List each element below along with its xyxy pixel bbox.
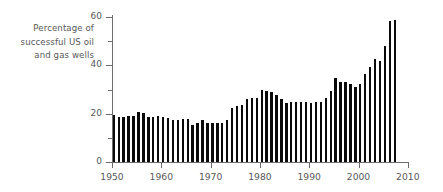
bar-1956 xyxy=(142,113,144,162)
bar-2003 xyxy=(374,59,376,162)
bar-2006 xyxy=(389,21,391,162)
bar-1974 xyxy=(231,108,233,162)
bar-1983 xyxy=(275,95,277,162)
bar-1972 xyxy=(221,123,223,162)
y-axis-label: Percentage of successful US oil and gas … xyxy=(6,22,94,63)
bar-1965 xyxy=(187,119,189,162)
bar-1995 xyxy=(334,78,336,162)
bar-1971 xyxy=(216,123,218,162)
bar-2000 xyxy=(359,84,361,162)
x-axis-tick-2000 xyxy=(359,163,360,168)
bar-1996 xyxy=(339,82,341,162)
bar-1997 xyxy=(344,82,346,162)
bar-1979 xyxy=(256,98,258,162)
bar-1962 xyxy=(172,120,174,162)
bar-2001 xyxy=(364,74,366,162)
bar-1984 xyxy=(280,99,282,162)
bar-1957 xyxy=(147,117,149,162)
bar-1964 xyxy=(182,119,184,163)
x-axis-tick-label-2000: 2000 xyxy=(339,171,379,182)
bar-1985 xyxy=(285,103,287,162)
bar-1973 xyxy=(226,120,228,162)
bar-1977 xyxy=(246,99,248,162)
bar-2005 xyxy=(384,46,386,162)
x-axis-tick-1970 xyxy=(211,163,212,168)
x-axis-tick-2010 xyxy=(408,163,409,168)
bar-1970 xyxy=(211,123,213,162)
bar-1959 xyxy=(157,116,159,162)
bar-1991 xyxy=(315,102,317,162)
bar-1976 xyxy=(241,105,243,162)
x-axis-tick-1960 xyxy=(161,163,162,168)
x-axis-tick-label-2010: 2010 xyxy=(388,171,428,182)
bar-1978 xyxy=(251,98,253,162)
bar-1993 xyxy=(325,98,327,162)
bar-1952 xyxy=(122,117,124,162)
x-axis-tick-1950 xyxy=(112,163,113,168)
x-axis-tick-label-1960: 1960 xyxy=(141,171,181,182)
bar-1987 xyxy=(295,102,297,162)
bar-1990 xyxy=(310,103,312,162)
y-axis-label-line-2: successful US oil xyxy=(6,36,94,50)
bar-1982 xyxy=(270,92,272,162)
y-axis-tick-label-0: 0 xyxy=(76,156,102,166)
bar-series xyxy=(112,17,408,162)
x-axis-tick-label-1970: 1970 xyxy=(191,171,231,182)
bar-1953 xyxy=(127,116,129,162)
bar-1954 xyxy=(132,116,134,162)
bar-1998 xyxy=(349,84,351,162)
bar-1999 xyxy=(354,87,356,162)
bar-1989 xyxy=(305,102,307,162)
bar-1955 xyxy=(137,112,139,162)
y-axis-tick-label-20: 20 xyxy=(76,108,102,118)
bar-1950 xyxy=(113,115,115,162)
chart-figure: Percentage of successful US oil and gas … xyxy=(0,0,443,192)
bar-1963 xyxy=(177,120,179,162)
bar-1961 xyxy=(167,118,169,162)
bar-2002 xyxy=(369,67,371,162)
bar-2007 xyxy=(394,20,396,162)
bar-1981 xyxy=(265,91,267,162)
x-axis-tick-label-1980: 1980 xyxy=(240,171,280,182)
x-axis-tick-1980 xyxy=(260,163,261,168)
x-axis-tick-label-1950: 1950 xyxy=(92,171,132,182)
bar-1980 xyxy=(261,90,263,162)
y-axis-label-line-1: Percentage of xyxy=(6,22,94,36)
bar-1951 xyxy=(118,117,120,162)
x-axis-tick-label-1990: 1990 xyxy=(289,171,329,182)
bar-1960 xyxy=(162,117,164,162)
y-axis-tick-label-60: 60 xyxy=(76,11,102,21)
bar-1968 xyxy=(201,120,203,162)
bar-1988 xyxy=(300,102,302,162)
bar-2004 xyxy=(379,61,381,162)
bar-1967 xyxy=(196,123,198,162)
x-axis-tick-1990 xyxy=(309,163,310,168)
bar-1986 xyxy=(290,102,292,162)
y-axis-tick-label-40: 40 xyxy=(76,59,102,69)
bar-1969 xyxy=(206,123,208,162)
bar-1994 xyxy=(330,91,332,162)
bar-1966 xyxy=(191,125,193,162)
bar-1992 xyxy=(320,102,322,162)
bar-1958 xyxy=(152,117,154,162)
bar-1975 xyxy=(236,106,238,162)
